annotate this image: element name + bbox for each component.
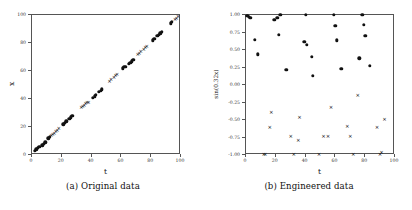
x-tick-label: 100 — [390, 158, 399, 163]
data-point-cross — [345, 123, 350, 128]
y-tick-label: 100 — [17, 12, 26, 17]
x-tick — [180, 154, 181, 157]
y-tick — [242, 14, 245, 15]
data-point-cross — [375, 125, 380, 130]
x-tick — [394, 154, 395, 157]
data-point-cross — [288, 134, 293, 139]
x-tick-label: 60 — [331, 158, 337, 163]
data-point-dot — [65, 120, 68, 123]
panel-a: t x (a) Original data 020406080100020406… — [0, 0, 206, 210]
panel-b: t sin(0.32x) (b) Engineered data 0204060… — [206, 0, 412, 210]
data-point-cross — [269, 109, 274, 114]
data-point-cross — [176, 14, 181, 19]
data-point-dot — [100, 87, 103, 90]
x-tick-label: 40 — [302, 158, 308, 163]
x-tick — [61, 154, 62, 157]
y-tick — [28, 70, 31, 71]
y-tick-label: 40 — [20, 96, 26, 101]
data-point-dot — [362, 23, 365, 26]
data-point-dot — [358, 57, 361, 60]
data-point-dot — [44, 141, 47, 144]
x-tick-label: 60 — [117, 158, 123, 163]
x-tick — [91, 154, 92, 157]
y-tick — [242, 32, 245, 33]
x-tick-label: 80 — [361, 158, 367, 163]
y-tick-label: -1.00 — [228, 152, 240, 157]
y-tick — [242, 154, 245, 155]
x-axis-title-b: t — [318, 167, 321, 176]
data-point-cross — [325, 134, 330, 139]
data-point-dot — [124, 65, 127, 68]
y-tick-label: 60 — [20, 68, 26, 73]
y-tick — [242, 137, 245, 138]
x-tick — [150, 154, 151, 157]
x-tick — [364, 154, 365, 157]
data-point-dot — [132, 58, 135, 61]
x-tick — [245, 154, 246, 157]
y-tick — [28, 126, 31, 127]
data-point-cross — [263, 152, 268, 157]
figure-two-panel-scatter: t x (a) Original data 020406080100020406… — [0, 0, 412, 210]
y-tick-label: 80 — [20, 40, 26, 45]
data-point-cross — [351, 151, 356, 156]
data-point-dot — [249, 16, 252, 19]
y-tick — [242, 67, 245, 68]
y-axis-title-a: x — [7, 82, 16, 86]
data-point-dot — [94, 93, 97, 96]
x-tick — [31, 154, 32, 157]
x-tick — [120, 154, 121, 157]
data-point-cross — [86, 99, 91, 104]
data-point-dot — [340, 67, 343, 70]
x-tick-label: 80 — [147, 158, 153, 163]
data-point-cross — [56, 126, 61, 131]
y-tick-label: -0.25 — [228, 99, 240, 104]
data-point-dot — [305, 43, 308, 46]
y-tick-label: 0.25 — [230, 64, 240, 69]
x-tick-label: 0 — [30, 158, 33, 163]
x-tick — [305, 154, 306, 157]
y-axis-title-b: sin(0.32x) — [213, 69, 219, 98]
y-tick — [28, 154, 31, 155]
data-point-dot — [311, 74, 314, 77]
x-tick — [334, 154, 335, 157]
y-tick — [28, 42, 31, 43]
y-tick — [242, 102, 245, 103]
y-tick — [242, 49, 245, 50]
y-tick-label: 0.00 — [230, 82, 240, 87]
data-point-cross — [379, 149, 384, 154]
data-point-cross — [297, 114, 302, 119]
data-point-dot — [334, 24, 337, 27]
data-point-cross — [267, 125, 272, 130]
panel-caption-b: (b) Engineered data — [206, 181, 412, 191]
data-point-cross — [355, 92, 360, 97]
data-point-dot — [253, 38, 256, 41]
data-point-dot — [276, 16, 279, 19]
data-point-cross — [144, 43, 149, 48]
y-tick-label: 0.50 — [230, 47, 240, 52]
y-tick-label: -0.75 — [228, 134, 240, 139]
y-tick-label: 0.75 — [230, 29, 240, 34]
data-point-dot — [368, 64, 371, 67]
data-point-dot — [71, 114, 74, 117]
data-point-dot — [277, 33, 280, 36]
data-point-dot — [285, 68, 288, 71]
data-point-dot — [304, 13, 307, 16]
x-tick-label: 40 — [88, 158, 94, 163]
y-tick-label: 20 — [20, 124, 26, 129]
data-point-dot — [279, 13, 282, 16]
plot-area-a — [31, 14, 180, 154]
data-point-cross — [296, 138, 301, 143]
y-tick — [242, 119, 245, 120]
x-tick-label: 20 — [272, 158, 278, 163]
x-axis-title-a: t — [104, 167, 107, 176]
data-point-dot — [332, 13, 335, 16]
data-point-cross — [382, 117, 387, 122]
y-tick-label: 1.00 — [230, 12, 240, 17]
x-tick-label: 0 — [244, 158, 247, 163]
data-point-cross — [348, 134, 353, 139]
data-point-dot — [256, 52, 259, 55]
y-tick — [28, 14, 31, 15]
y-tick — [28, 98, 31, 99]
data-point-dot — [361, 13, 364, 16]
x-tick-label: 20 — [58, 158, 64, 163]
